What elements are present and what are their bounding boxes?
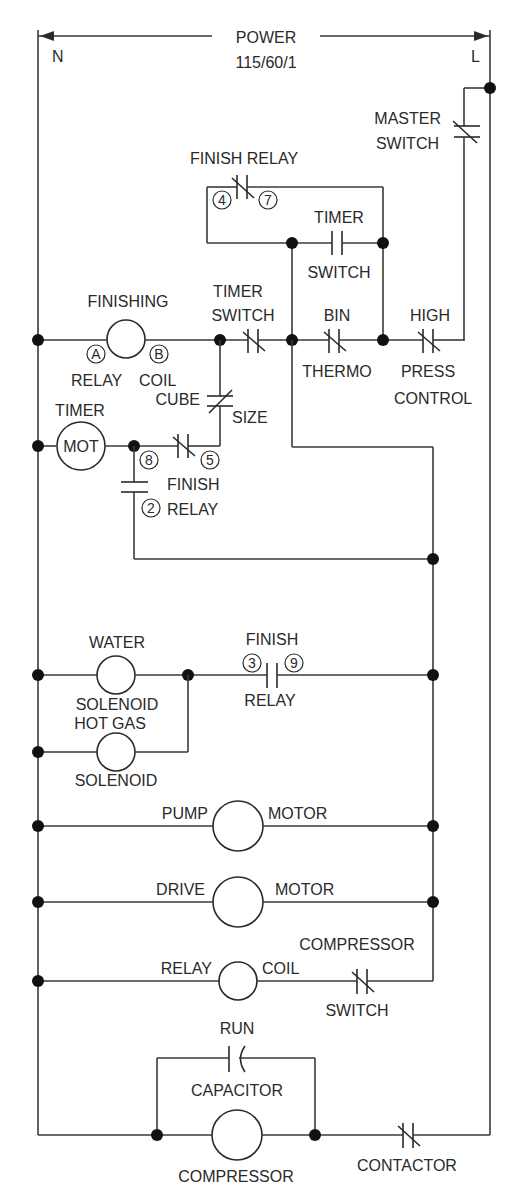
run-label: RUN (220, 1020, 255, 1037)
neutral-label: N (52, 48, 64, 65)
water-solenoid-label: SOLENOID (76, 696, 159, 713)
junction-dot (377, 334, 389, 346)
timer-label: TIMER (55, 402, 105, 419)
press-label: PRESS (401, 363, 455, 380)
water-solenoid: WATER SOLENOID (76, 634, 159, 713)
relay-label: RELAY (71, 372, 123, 389)
junction-dot (32, 746, 44, 758)
bin-thermo: BIN THERMO (302, 307, 371, 380)
timer-switch-no-label-1: TIMER (314, 209, 364, 226)
finish-relay-82-label-1: FINISH (167, 476, 219, 493)
terminal-8: 8 (145, 452, 153, 468)
power-label: POWER (236, 29, 296, 46)
compressor-relay-coil: RELAY COIL (161, 960, 300, 1000)
master-switch-label-2: SWITCH (376, 135, 439, 152)
cube-size-switch: CUBE SIZE (156, 340, 268, 446)
junction-dot (484, 82, 496, 94)
terminal-3: 3 (248, 655, 256, 671)
pump-motor-label: MOTOR (268, 805, 327, 822)
relay-coil-right-label: COIL (262, 960, 299, 977)
compressor-switch: COMPRESSOR SWITCH (299, 936, 415, 1019)
finish-relay-39-label-2: RELAY (244, 692, 296, 709)
junction-dot (427, 896, 439, 908)
drive-label: DRIVE (156, 881, 205, 898)
timer-switch-no: TIMER SWITCH (292, 209, 383, 281)
compressor-label: COMPRESSOR (178, 1168, 294, 1185)
junction-dot (427, 820, 439, 832)
terminal-4: 4 (218, 192, 226, 208)
compressor-switch-label-2: SWITCH (325, 1002, 388, 1019)
junction-dot (32, 440, 44, 452)
arrow-left-icon (40, 31, 54, 41)
junction-dot (151, 1129, 163, 1141)
hot-gas-solenoid-label: SOLENOID (75, 772, 158, 789)
power-spec: 115/60/1 (235, 54, 296, 71)
capacitor-label: CAPACITOR (191, 1082, 283, 1099)
junction-dot (286, 237, 298, 249)
junction-dot (32, 820, 44, 832)
mot-label: MOT (63, 438, 99, 455)
junction-dot (427, 553, 439, 565)
finish-relay-top-label: FINISH RELAY (190, 150, 299, 167)
bin-label: BIN (324, 307, 351, 324)
relay-coil-left-label: RELAY (161, 960, 213, 977)
timer-switch-no-label-2: SWITCH (307, 264, 370, 281)
contactor-label: CONTACTOR (357, 1157, 457, 1174)
high-press-control: HIGH PRESS CONTROL (394, 307, 472, 407)
junction-dot (377, 237, 389, 249)
timer-switch-nc-label-2: SWITCH (211, 307, 274, 324)
junction-dot (32, 975, 44, 987)
finish-relay-4-7: FINISH RELAY 4 7 (190, 150, 383, 243)
timer-motor: TIMER MOT (55, 402, 105, 470)
junction-dot (32, 896, 44, 908)
junction-dot (32, 334, 44, 346)
compressor-switch-label-1: COMPRESSOR (299, 936, 415, 953)
drive-motor-label: MOTOR (275, 881, 334, 898)
terminal-2: 2 (147, 500, 155, 516)
coil-label: COIL (139, 372, 176, 389)
finish-relay-82-label-2: RELAY (167, 501, 219, 518)
arrow-right-icon (474, 31, 488, 41)
power-header: POWER 115/60/1 N L (38, 29, 490, 71)
terminal-7: 7 (264, 192, 272, 208)
terminal-a: A (91, 346, 101, 362)
wiring-diagram: POWER 115/60/1 N L MASTER SWITCH FINISH … (0, 0, 518, 1198)
cube-label: CUBE (156, 391, 200, 408)
control-label: CONTROL (394, 390, 472, 407)
line-label: L (471, 48, 480, 65)
compressor: COMPRESSOR (178, 1110, 294, 1185)
timer-switch-nc-label-1: TIMER (213, 283, 263, 300)
master-switch-label-1: MASTER (374, 110, 441, 127)
finishing-label: FINISHING (88, 293, 169, 310)
master-switch: MASTER SWITCH (374, 88, 490, 341)
junction-dot (309, 1129, 321, 1141)
finish-relay-3-9: 3 9 FINISH RELAY (243, 631, 303, 709)
terminal-5: 5 (206, 452, 214, 468)
finishing-relay-coil: FINISHING A B RELAY COIL (71, 293, 176, 389)
high-label: HIGH (410, 307, 450, 324)
junction-dot (32, 669, 44, 681)
thermo-label: THERMO (302, 363, 371, 380)
terminal-9: 9 (290, 655, 298, 671)
size-label: SIZE (232, 409, 268, 426)
water-label: WATER (89, 634, 145, 651)
junction-dot (427, 669, 439, 681)
finish-relay-39-label-1: FINISH (246, 631, 298, 648)
contactor: CONTACTOR (357, 1123, 457, 1174)
finish-relay-8-5: 8 5 (140, 434, 219, 469)
pump-label: PUMP (162, 805, 208, 822)
terminal-b: B (154, 346, 163, 362)
hot-gas-label: HOT GAS (74, 715, 146, 732)
